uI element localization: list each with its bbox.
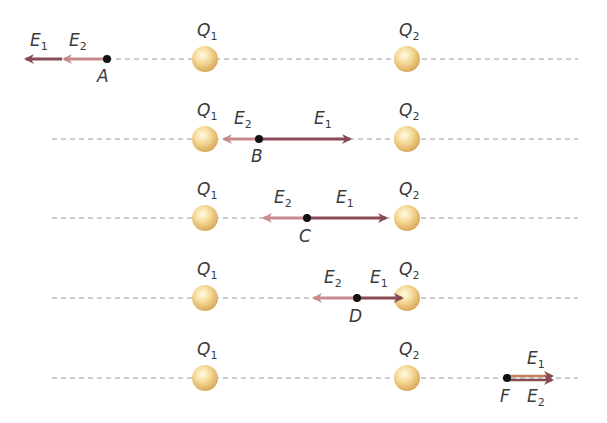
charge-q2-sphere [394, 126, 420, 152]
electric-field-diagram: E1 E2 A Q1 Q2 E2 E1 B Q1 Q2 E2 E1 C Q1 Q… [0, 0, 607, 423]
e1-label: E1 [336, 187, 354, 210]
q1-label: Q1 [197, 20, 217, 43]
row-point-c: E2 E1 C Q1 Q2 [52, 179, 578, 246]
q1-label: Q1 [197, 339, 217, 362]
point-c-dot [303, 214, 311, 222]
e2-label: E2 [69, 30, 87, 53]
charge-q2-sphere [394, 365, 420, 391]
row-point-b: E2 E1 B Q1 Q2 [52, 100, 578, 166]
q1-label: Q1 [197, 179, 217, 202]
charge-q2-sphere [394, 46, 420, 72]
q2-label: Q2 [399, 100, 419, 123]
point-c-label: C [299, 226, 311, 246]
e2-label: E2 [234, 108, 252, 131]
charge-q1-sphere [192, 126, 218, 152]
point-b-label: B [251, 146, 263, 166]
q1-label: Q1 [197, 100, 217, 123]
charge-q1-sphere [192, 205, 218, 231]
e1-label: E1 [314, 108, 332, 131]
point-d-label: D [349, 306, 362, 326]
point-b-dot [255, 135, 263, 143]
e2-label: E2 [527, 386, 545, 409]
q1-label: Q1 [197, 259, 217, 282]
charge-q2-sphere [394, 205, 420, 231]
e1-label: E1 [527, 348, 545, 371]
point-f-dot [503, 374, 511, 382]
charge-q1-sphere [192, 285, 218, 311]
q2-label: Q2 [399, 259, 419, 282]
e2-label: E2 [324, 267, 342, 290]
row-point-a: E1 E2 A Q1 Q2 [26, 20, 578, 86]
q2-label: Q2 [399, 20, 419, 43]
charge-q1-sphere [192, 365, 218, 391]
charge-q1-sphere [192, 46, 218, 72]
row-point-f: E1 E2 F Q1 Q2 [52, 339, 578, 409]
e1-label: E1 [30, 30, 48, 53]
row-point-d: E2 E1 D Q1 Q2 [52, 259, 578, 326]
e1-label: E1 [370, 267, 388, 290]
e2-label: E2 [274, 187, 292, 210]
point-a-dot [103, 55, 111, 63]
q2-label: Q2 [399, 339, 419, 362]
point-a-label: A [96, 66, 109, 86]
q2-label: Q2 [399, 179, 419, 202]
point-f-label: F [500, 386, 510, 406]
point-d-dot [353, 294, 361, 302]
